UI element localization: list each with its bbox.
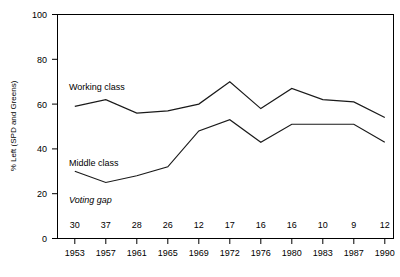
voting-gap-value: 9	[351, 220, 356, 230]
series-label-working-class: Working class	[69, 82, 125, 92]
x-axis-tick-labels: 1953 1957 1961 1965 1969 1972 1976 1980 …	[65, 248, 395, 258]
x-axis-ticks	[75, 239, 385, 245]
voting-gap-value: 16	[256, 220, 266, 230]
voting-gap-value: 12	[380, 220, 390, 230]
voting-gap-label: Voting gap	[69, 195, 112, 205]
x-tick-label: 1972	[220, 248, 240, 258]
y-tick-label: 20	[37, 189, 47, 199]
y-tick-label: 100	[32, 10, 47, 20]
x-tick-label: 1990	[375, 248, 395, 258]
voting-gap-value: 10	[318, 220, 328, 230]
voting-gap-value: 28	[132, 220, 142, 230]
series-label-middle-class: Middle class	[69, 158, 119, 168]
voting-gap-value: 16	[287, 220, 297, 230]
series-line-middle-class	[75, 120, 385, 183]
voting-gap-values-row: 30 37 28 26 12 17 16 16 10 9 12	[70, 220, 390, 230]
y-axis-title: % Left (SPD and Greens)	[9, 80, 18, 171]
voting-gap-value: 12	[194, 220, 204, 230]
y-axis-tick-labels: 100 80 60 40 20 0	[32, 10, 47, 244]
voting-gap-value: 17	[225, 220, 235, 230]
y-axis-ticks	[52, 15, 58, 239]
x-tick-label: 1961	[127, 248, 147, 258]
y-tick-label: 40	[37, 144, 47, 154]
y-tick-label: 80	[37, 55, 47, 65]
x-tick-label: 1957	[96, 248, 116, 258]
voting-gap-value: 37	[101, 220, 111, 230]
x-tick-label: 1965	[158, 248, 178, 258]
x-tick-label: 1980	[282, 248, 302, 258]
x-tick-label: 1969	[189, 248, 209, 258]
y-tick-label: 60	[37, 100, 47, 110]
x-tick-label: 1976	[251, 248, 271, 258]
x-tick-label: 1987	[344, 248, 364, 258]
line-chart: 100 80 60 40 20 0 % Left (SPD and Greens…	[0, 0, 400, 277]
voting-gap-value: 30	[70, 220, 80, 230]
voting-gap-value: 26	[163, 220, 173, 230]
x-tick-label: 1953	[65, 248, 85, 258]
y-tick-label: 0	[42, 234, 47, 244]
chart-container: 100 80 60 40 20 0 % Left (SPD and Greens…	[0, 0, 400, 277]
x-tick-label: 1983	[313, 248, 333, 258]
